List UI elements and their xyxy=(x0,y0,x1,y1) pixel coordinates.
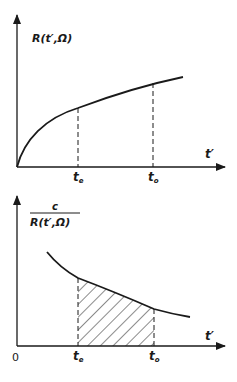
figure: R(t′,Ω) t′ te to c R(t′,Ω) t′ 0 te to xyxy=(0,0,237,382)
bottom-panel: c R(t′,Ω) t′ 0 te to xyxy=(12,196,225,364)
bottom-y-label-denominator: R(t′,Ω) xyxy=(30,216,70,229)
bottom-tick-te: te xyxy=(73,349,84,364)
top-y-label: R(t′,Ω) xyxy=(32,32,72,45)
bottom-x-label: t′ xyxy=(205,329,215,343)
top-curve-R xyxy=(17,77,183,167)
top-tick-te: te xyxy=(73,170,84,185)
bottom-tick-to: to xyxy=(149,349,160,364)
top-panel: R(t′,Ω) t′ te to xyxy=(17,15,225,185)
hatched-area xyxy=(78,270,154,346)
bottom-y-label-numerator: c xyxy=(52,201,58,212)
top-x-label: t′ xyxy=(205,147,215,161)
top-tick-to: to xyxy=(148,170,159,185)
origin-label: 0 xyxy=(12,351,19,364)
